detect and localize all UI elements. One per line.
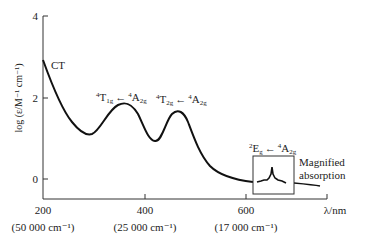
- x-tick-label-400: 400: [137, 204, 154, 216]
- svg-text:4T1g←4A2g: 4T1g←4A2g: [96, 91, 147, 105]
- spectrum-chart: 4 2 0 200 400 600 λ/nm (50 000 cm⁻¹) (25…: [0, 0, 365, 241]
- spectrum-tail: [294, 183, 320, 186]
- band1-label: 4T1g←4A2g: [96, 91, 147, 105]
- svg-text:4T2g←4A2g: 4T2g←4A2g: [156, 93, 207, 107]
- y-tick-label-0: 0: [33, 173, 39, 185]
- x-tick-sublabel-400: (25 000 cm⁻¹): [114, 221, 177, 234]
- x-tick-label-200: 200: [35, 204, 52, 216]
- band3-label: 2Eg←4A2g: [249, 142, 297, 156]
- band2-label: 4T2g←4A2g: [156, 93, 207, 107]
- y-tick-label-2: 2: [33, 92, 39, 104]
- x-tick-sublabel-200: (50 000 cm⁻¹): [12, 221, 75, 234]
- y-axis-title: log (ε/M⁻¹ cm⁻¹): [13, 63, 25, 132]
- x-tick-label-600: 600: [238, 204, 255, 216]
- spectrum-curve: [43, 60, 253, 182]
- x-axis-title: λ/nm: [324, 204, 347, 216]
- ct-label: CT: [51, 59, 65, 71]
- svg-text:2Eg←4A2g: 2Eg←4A2g: [249, 142, 297, 156]
- inset-caption-line1: Magnified: [299, 156, 345, 168]
- x-tick-sublabel-600: (17 000 cm⁻¹): [215, 221, 278, 234]
- inset-caption-line2: absorption: [299, 169, 346, 181]
- y-tick-label-4: 4: [33, 10, 39, 22]
